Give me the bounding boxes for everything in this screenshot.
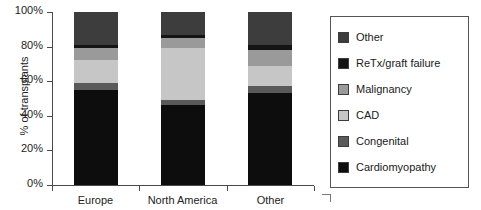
legend-entry-label: Cardiomyopathy [356,161,436,173]
plot-area: 0%20%40%60%80%100% EuropeNorth AmericaOt… [52,12,314,186]
y-axis-tick: 100% [47,12,52,13]
y-axis-tick-label: 60% [21,73,43,85]
y-axis-tick: 20% [47,150,52,151]
x-axis-category-label: Other [227,194,314,206]
bar-segment[interactable] [248,86,292,93]
legend-color-swatch-icon [338,162,349,173]
legend-color-swatch-icon [338,136,349,147]
bar-segment[interactable] [74,60,118,82]
x-axis-line [52,185,314,186]
stacked-bar[interactable] [161,12,205,185]
legend-entry-label: Malignancy [356,83,412,95]
y-axis-tick: 80% [47,47,52,48]
legend-entry[interactable]: CAD [338,102,464,128]
legend-entry[interactable]: Malignancy [338,76,464,102]
y-axis-tick-label: 80% [21,39,43,51]
x-axis-category-label: North America [139,194,226,206]
legend-entry-label: Other [356,31,384,43]
legend-entry[interactable]: Congenital [338,128,464,154]
y-axis-tick-label: 20% [21,142,43,154]
x-axis-tick [139,186,140,191]
bar-segment[interactable] [161,12,205,34]
corner-crop-mark [322,194,331,202]
x-axis-tick [52,186,53,191]
y-axis-tick-label: 40% [21,108,43,120]
stacked-bar[interactable] [74,12,118,185]
y-axis-tick: 60% [47,81,52,82]
legend-color-swatch-icon [338,84,349,95]
y-axis-tick-label: 100% [15,4,43,16]
legend-entry-label: CAD [356,109,379,121]
x-axis-tick [227,186,228,191]
x-axis-category-label: Europe [52,194,139,206]
y-axis-line [52,12,53,186]
y-axis-tick-label: 0% [27,177,43,189]
y-axis-tick: 40% [47,116,52,117]
bar-segment[interactable] [248,93,292,185]
bar-segment[interactable] [161,105,205,185]
stacked-bar[interactable] [248,12,292,185]
bar-segment[interactable] [161,38,205,48]
bar-segment[interactable] [74,12,118,45]
legend-color-swatch-icon [338,58,349,69]
x-axis-tick [314,186,315,191]
bar-segment[interactable] [74,48,118,60]
legend-entry[interactable]: Cardiomyopathy [338,154,464,180]
legend-entry[interactable]: Other [338,24,464,50]
legend-entry[interactable]: ReTx/graft failure [338,50,464,76]
legend-entry-list: OtherReTx/graft failureMalignancyCADCong… [338,24,464,180]
legend-entry-label: ReTx/graft failure [356,57,440,69]
stacked-bar-chart-figure: % of transplants 0%20%40%60%80%100% Euro… [0,0,481,210]
legend-entry-label: Congenital [356,135,409,147]
bar-segment[interactable] [74,83,118,90]
bar-segment[interactable] [248,12,292,45]
bar-segment[interactable] [248,50,292,66]
bar-segment[interactable] [161,48,205,100]
legend-color-swatch-icon [338,32,349,43]
bar-segment[interactable] [248,66,292,87]
chart-legend: OtherReTx/graft failureMalignancyCADCong… [330,16,469,188]
legend-color-swatch-icon [338,110,349,121]
bar-segment[interactable] [74,90,118,185]
